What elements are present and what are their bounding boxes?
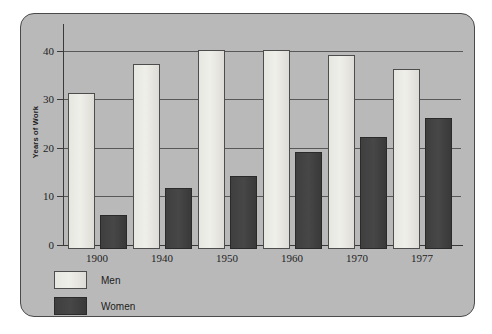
- bar-women-1940: [165, 188, 192, 249]
- y-tick-label-10: 10: [43, 190, 54, 202]
- legend-label-men: Men: [101, 275, 120, 286]
- y-tick-mark-10: [57, 196, 63, 197]
- x-tick-label-1940: 1940: [151, 252, 173, 264]
- legend-item-women: Women: [54, 293, 214, 317]
- plot-area: 40 30 20 10 0 1900 194: [63, 24, 463, 249]
- bar-women-1900: [100, 215, 127, 249]
- bar-men-1970: [328, 55, 355, 250]
- legend-swatch-women-icon: [54, 297, 87, 315]
- y-tick-mark-0: [57, 245, 63, 246]
- bar-men-1900: [68, 93, 95, 249]
- y-axis-title: Years of Work: [31, 106, 40, 158]
- bar-men-1960: [263, 50, 290, 249]
- bar-men-1940: [133, 64, 160, 249]
- legend-swatch-men-icon: [54, 271, 87, 289]
- y-axis-line: [63, 24, 64, 245]
- chart-legend: Men Women: [54, 267, 214, 317]
- y-tick-mark-40: [57, 51, 63, 52]
- y-tick-mark-30: [57, 99, 63, 100]
- bar-women-1970: [360, 137, 387, 249]
- x-tick-label-1950: 1950: [216, 252, 238, 264]
- legend-label-women: Women: [101, 301, 135, 312]
- y-tick-label-20: 20: [43, 142, 54, 154]
- bar-women-1950: [230, 176, 257, 249]
- y-tick-label-40: 40: [43, 45, 54, 57]
- bar-chart-figure: Years of Work 40 30 20 10 0: [0, 0, 492, 334]
- x-tick-label-1960: 1960: [281, 252, 303, 264]
- bar-men-1977: [393, 69, 420, 249]
- y-tick-label-30: 30: [43, 93, 54, 105]
- x-tick-label-1900: 1900: [86, 252, 108, 264]
- y-tick-mark-20: [57, 148, 63, 149]
- x-tick-label-1970: 1970: [346, 252, 368, 264]
- bar-men-1950: [198, 50, 225, 249]
- x-tick-label-1977: 1977: [411, 252, 433, 264]
- bar-women-1977: [425, 118, 452, 249]
- chart-panel: Years of Work 40 30 20 10 0: [20, 13, 475, 317]
- legend-item-men: Men: [54, 267, 214, 293]
- y-tick-label-0: 0: [49, 239, 55, 251]
- bar-women-1960: [295, 152, 322, 249]
